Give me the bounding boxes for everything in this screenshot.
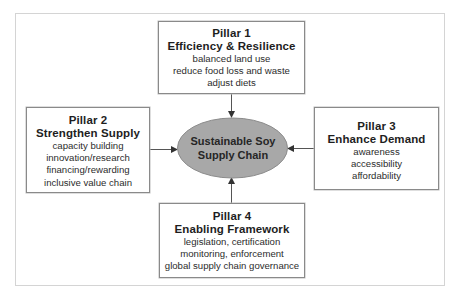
pillar-1-box: Pillar 1 Efficiency & Resilience balance… (158, 21, 305, 94)
pillar-2-item: financing/rewarding (27, 164, 149, 176)
hub-label-line-1: Sustainable Soy (191, 134, 276, 148)
pillar-2-heading: Pillar 2 (27, 114, 149, 127)
pillar-3-title: Enhance Demand (315, 133, 438, 146)
hub-label-line-2: Supply Chain (198, 148, 268, 162)
pillar-3-heading: Pillar 3 (315, 120, 438, 133)
pillar-3-item: accessibility (315, 158, 438, 170)
pillar-4-item: legislation, certification (160, 236, 304, 248)
pillar-3-box: Pillar 3 Enhance Demand awareness access… (314, 107, 439, 190)
pillar-4-box: Pillar 4 Enabling Framework legislation,… (159, 203, 305, 278)
pillar-4-title: Enabling Framework (160, 223, 304, 236)
pillar-1-item: reduce food loss and waste (159, 65, 304, 77)
pillar-3-item: affordability (315, 170, 438, 182)
pillar-4-heading: Pillar 4 (160, 210, 304, 223)
pillar-2-box: Pillar 2 Strengthen Supply capacity buil… (26, 107, 150, 193)
pillar-2-item: innovation/research (27, 152, 149, 164)
pillar-2-item: capacity building (27, 140, 149, 152)
pillar-4-item: monitoring, enforcement (160, 248, 304, 260)
hub-label: Sustainable Soy Supply Chain (178, 118, 288, 178)
pillar-1-item: adjust diets (159, 77, 304, 89)
pillar-3-item: awareness (315, 146, 438, 158)
pillar-2-title: Strengthen Supply (27, 127, 149, 140)
pillar-1-heading: Pillar 1 (159, 27, 304, 40)
pillar-1-title: Efficiency & Resilience (159, 40, 304, 53)
pillar-4-item: global supply chain governance (160, 260, 304, 272)
pillar-1-item: balanced land use (159, 53, 304, 65)
pillar-2-item: inclusive value chain (27, 177, 149, 189)
